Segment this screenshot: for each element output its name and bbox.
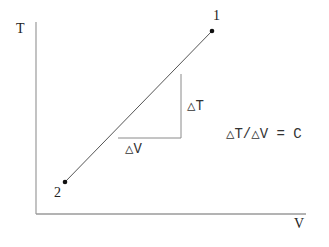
run-label: △V (125, 141, 142, 157)
point-2-marker (63, 180, 68, 185)
diagram-canvas: T V 1 2 △T △V △T/△V = C (0, 0, 329, 247)
rise-label: △T (187, 98, 204, 114)
point-2-label: 2 (54, 185, 61, 200)
point-1-marker (210, 29, 215, 34)
y-axis-label: T (16, 21, 25, 36)
x-axis-label: V (294, 216, 304, 231)
point-1-label: 1 (213, 8, 220, 23)
equation-label: △T/△V = C (226, 126, 302, 142)
